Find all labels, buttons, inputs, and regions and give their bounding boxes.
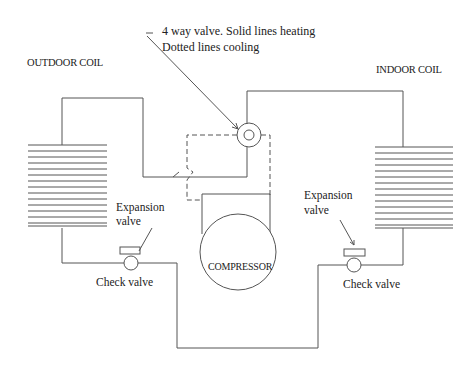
- right-expansion-valve-label-line2: valve: [304, 205, 329, 217]
- dashed-piping-cooling: [187, 135, 270, 200]
- left-check-valve-label: Check valve: [96, 277, 153, 289]
- four-way-valve: [237, 123, 261, 147]
- right-check-valve: [347, 258, 361, 272]
- right-check-valve-label: Check valve: [343, 279, 400, 291]
- four-way-valve-note-line1: 4 way valve. Solid lines heating: [162, 25, 315, 37]
- indoor-coil-label: INDOOR COIL: [376, 65, 442, 76]
- heat-pump-diagram: [0, 0, 475, 370]
- outdoor-coil: [28, 145, 107, 226]
- compressor-label: COMPRESSOR: [208, 262, 272, 272]
- right-expansion-valve: [340, 220, 365, 256]
- left-expansion-valve-label-line2: valve: [116, 216, 141, 228]
- outdoor-coil-label: OUTDOOR COIL: [27, 58, 103, 69]
- left-expansion-valve: [120, 228, 152, 254]
- indoor-coil: [375, 147, 453, 228]
- left-check-valve: [124, 256, 138, 270]
- left-expansion-valve-label-line1: Expansion: [116, 202, 165, 214]
- four-way-valve-note-line2: Dotted lines cooling: [162, 41, 259, 53]
- right-expansion-valve-label-line1: Expansion: [304, 190, 353, 202]
- compressor: [200, 194, 276, 290]
